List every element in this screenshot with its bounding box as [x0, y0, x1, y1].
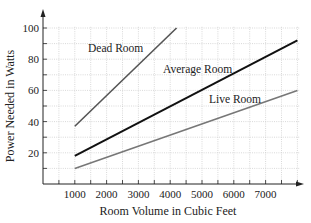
x-axis-title: Room Volume in Cubic Feet [100, 204, 238, 218]
series-label-live-room: Live Room [209, 93, 261, 105]
series-label-average-room: Average Room [163, 63, 232, 76]
x-tick-label: 5000 [191, 188, 214, 200]
y-axis-title: Power Needed in Watts [3, 49, 17, 162]
x-tick-label: 1000 [64, 188, 87, 200]
x-tick-label: 3000 [127, 188, 150, 200]
y-tick-label: 80 [28, 53, 40, 65]
y-axis-arrow-icon [41, 9, 46, 17]
y-tick-label: 100 [23, 22, 40, 34]
x-tick-label: 4000 [159, 188, 182, 200]
axes [41, 9, 305, 187]
series-label-dead-room: Dead Room [88, 42, 143, 54]
y-tick-label: 40 [28, 116, 40, 128]
x-tick-label: 6000 [223, 188, 246, 200]
x-tick-label: 7000 [255, 188, 278, 200]
y-tick-label: 60 [28, 84, 40, 96]
y-tick-label: 20 [28, 147, 40, 159]
x-tick-label: 2000 [96, 188, 119, 200]
line-chart: 100020003000400050006000700020406080100 … [0, 0, 311, 223]
